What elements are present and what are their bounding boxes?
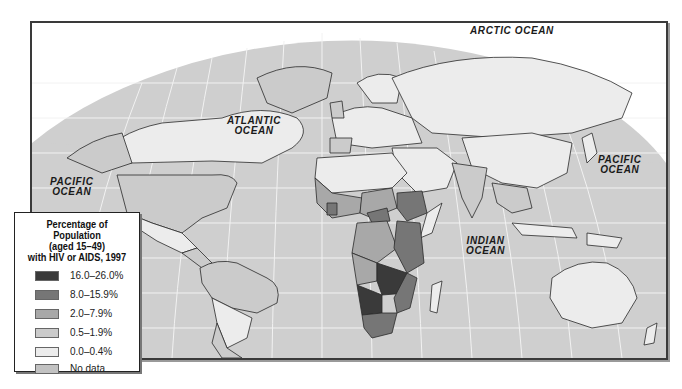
legend-swatch	[35, 309, 59, 319]
pacific-ocean-east-label: PACIFIC OCEAN	[598, 155, 641, 175]
ivory-coast	[327, 203, 337, 215]
north-africa	[315, 153, 407, 193]
arctic-ocean-label: ARCTIC OCEAN	[470, 26, 554, 36]
indian-ocean-label: INDIAN OCEAN	[466, 236, 505, 256]
legend-swatch	[35, 290, 59, 300]
pacific-ocean-west-label: PACIFIC OCEAN	[50, 177, 93, 197]
legend-item: No data	[35, 363, 105, 374]
legend-swatch	[35, 364, 59, 374]
iberia	[330, 138, 352, 153]
legend-title: Percentage of Population (aged 15–49) wi…	[22, 219, 131, 263]
uk	[330, 101, 344, 118]
legend-swatch	[35, 271, 59, 281]
atlantic-ocean-label: ATLANTIC OCEAN	[227, 116, 281, 136]
legend-item: 8.0–15.9%	[35, 289, 118, 300]
legend-item: 0.5–1.9%	[35, 327, 112, 338]
legend-item: 16.0–26.0%	[35, 270, 123, 281]
legend-item: 2.0–7.9%	[35, 308, 112, 319]
map-legend: Percentage of Population (aged 15–49) wi…	[14, 212, 140, 372]
legend-item: 0.0–0.4%	[35, 346, 112, 357]
legend-swatch	[35, 347, 59, 357]
legend-swatch	[35, 328, 59, 338]
